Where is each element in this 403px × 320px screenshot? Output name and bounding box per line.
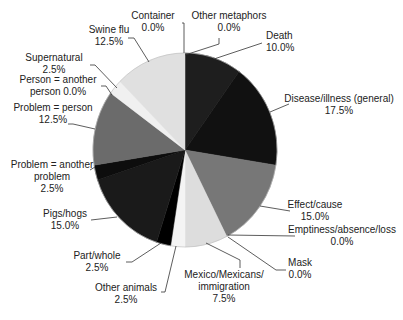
leader-line [68,124,95,129]
slice-label: Part/whole2.5% [73,250,121,273]
slice-label: Container0.0% [131,10,175,33]
slice-label: Mask0.0% [288,257,313,280]
slice-label: Disease/illness (general)17.5% [284,93,394,116]
leader-line [206,243,240,268]
leader-line [182,23,184,53]
slice-label: Death10.0% [266,30,294,53]
leader-line [270,104,289,112]
leader-line [228,235,295,236]
leader-line [161,246,176,292]
slice-label: Mexico/Mexicans/immigration7.5% [184,269,264,304]
pie-chart: Container0.0%Other metaphors0.0%Death10.… [0,0,403,320]
slice-label: Effect/cause15.0% [288,199,343,222]
pie-slices [93,53,277,247]
leader-line [91,217,117,220]
slice-label: Supernatural2.5% [25,52,82,75]
leader-line [185,38,219,55]
slice-label: Pigs/hogs15.0% [43,208,87,231]
leader-line [214,43,262,59]
slice-label: Problem = anotherproblem2.5% [11,159,94,194]
leader-line [260,206,290,211]
slice-label: Emptiness/absence/loss0.0% [288,224,396,247]
slice-label: Person = anotherperson 0.0% [20,74,98,97]
slice-label: Other metaphors0.0% [191,10,266,33]
leader-line [126,243,161,262]
slice-label: Problem = person12.5% [13,102,92,125]
slice-label: Other animals2.5% [95,282,157,305]
leader-line [128,38,149,62]
leader-line [228,237,286,270]
slice-label: Swine flu12.5% [89,24,130,47]
